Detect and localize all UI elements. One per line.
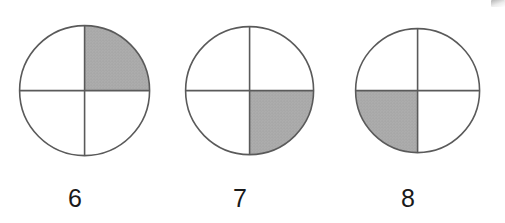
shaded-quadrant <box>85 26 150 91</box>
figure-row: 6 7 8 <box>0 0 505 223</box>
shaded-quadrant <box>250 91 314 155</box>
fraction-circle-diagram-1 <box>18 24 151 157</box>
fraction-circle-figure-2 <box>184 25 312 153</box>
fraction-circle-diagram-3 <box>354 27 481 154</box>
fraction-circle-figure-3 <box>354 27 478 151</box>
fraction-circle-figure-1 <box>18 24 148 154</box>
fraction-circles-worksheet: 6 7 8 <box>0 0 505 223</box>
shaded-quadrant <box>356 91 418 153</box>
figure-label-2: 7 <box>220 186 260 211</box>
figure-label-1: 6 <box>55 186 95 211</box>
figure-label-3: 8 <box>388 186 428 211</box>
fraction-circle-diagram-2 <box>184 25 315 156</box>
